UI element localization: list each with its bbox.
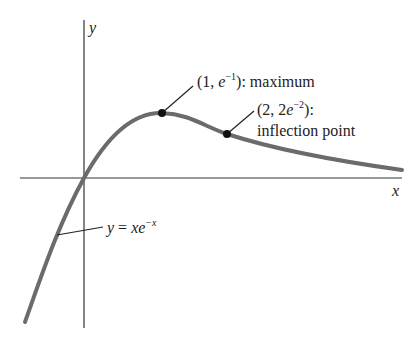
- inflection-point: [223, 130, 231, 138]
- inflection-label-line1: (2, 2e−2):: [257, 102, 314, 118]
- x-axis-label: x: [392, 183, 399, 199]
- inflection-label-line2: inflection point: [257, 123, 355, 139]
- curve-equation-label: y = xe−x: [107, 220, 157, 236]
- curve-leader-line: [57, 227, 103, 235]
- max-label: (1, e−1): maximum: [197, 74, 315, 90]
- inflection-leader-line: [227, 111, 254, 134]
- plot-canvas: [0, 0, 420, 346]
- max-leader-line: [162, 86, 193, 113]
- function-curve: [25, 113, 402, 322]
- y-axis-label: y: [89, 20, 96, 36]
- max-point: [158, 109, 166, 117]
